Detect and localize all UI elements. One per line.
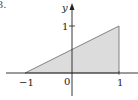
y-axis-label: y bbox=[61, 2, 68, 13]
figure-number: 3. bbox=[0, 0, 7, 10]
x-tick-label-0: 0 bbox=[64, 76, 70, 87]
y-tick-label: 1 bbox=[62, 21, 68, 32]
x-tick-label-1: 1 bbox=[117, 77, 123, 88]
x-tick-label-neg1: −1 bbox=[19, 77, 34, 88]
region-diagram: 3. y 1 −1 0 1 bbox=[0, 0, 138, 100]
y-axis-arrow-icon bbox=[70, 3, 75, 10]
